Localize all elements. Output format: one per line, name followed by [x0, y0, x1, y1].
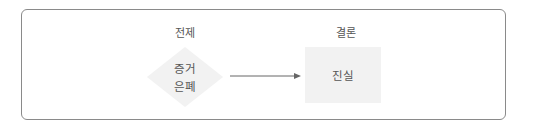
diagram-frame	[21, 9, 506, 120]
truth-node: 진실	[305, 47, 381, 103]
arrow-icon	[230, 71, 302, 81]
conclusion-label: 결론	[326, 24, 366, 40]
premise-label: 전제	[165, 24, 205, 40]
truth-text: 진실	[332, 67, 354, 83]
diamond-line-1: 증거	[147, 60, 223, 78]
diamond-line-2: 은폐	[147, 78, 223, 96]
evidence-concealment-text: 증거 은폐	[147, 60, 223, 96]
evidence-concealment-node: 증거 은폐	[147, 47, 223, 107]
